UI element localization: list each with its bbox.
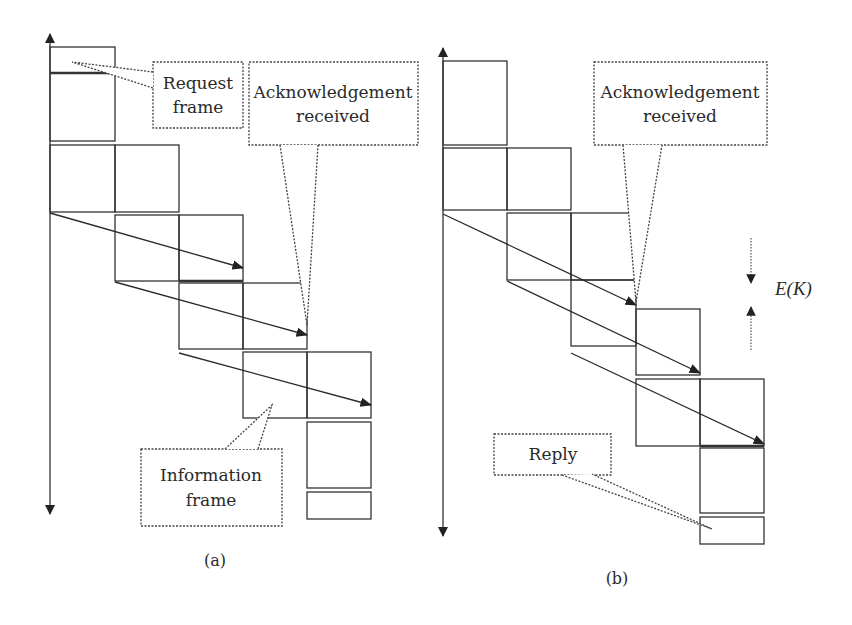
frame-box bbox=[307, 422, 371, 488]
frame-box bbox=[700, 448, 764, 513]
reply-callout: Reply bbox=[494, 434, 712, 529]
frame-box bbox=[179, 215, 243, 281]
frame-box bbox=[179, 283, 243, 349]
frame-box bbox=[571, 213, 636, 280]
diagram-layer: RequestframeAcknowledgementreceivedInfor… bbox=[50, 34, 812, 588]
callout-label: Information bbox=[160, 465, 262, 485]
transmission-arrow bbox=[507, 281, 700, 373]
frame-box bbox=[507, 148, 571, 210]
acknowledgement-received-callout: Acknowledgementreceived bbox=[594, 62, 767, 302]
frame-box bbox=[243, 283, 307, 349]
flow-control-diagram: RequestframeAcknowledgementreceivedInfor… bbox=[0, 0, 852, 625]
callout-label: received bbox=[643, 106, 717, 126]
transmission-arrow bbox=[115, 282, 307, 335]
callout-label: Request bbox=[163, 73, 233, 93]
callout-box bbox=[153, 62, 243, 128]
frame-box bbox=[115, 215, 179, 281]
callout-label: received bbox=[296, 106, 370, 126]
diagram-b: AcknowledgementreceivedReplyE(K)(b) bbox=[443, 48, 812, 588]
subfigure-caption: (b) bbox=[606, 569, 629, 588]
callout-label: Acknowledgement bbox=[252, 82, 412, 102]
frame-box bbox=[700, 379, 764, 446]
frame-box bbox=[50, 145, 115, 212]
interval-marker: E(K) bbox=[751, 238, 812, 350]
frame-box bbox=[307, 492, 371, 519]
frame-box bbox=[443, 61, 507, 145]
frame-box bbox=[700, 517, 764, 544]
callout-label: Acknowledgement bbox=[599, 82, 759, 102]
diagram-a: RequestframeAcknowledgementreceivedInfor… bbox=[50, 34, 418, 570]
frame-box bbox=[115, 145, 179, 212]
frame-box bbox=[636, 379, 700, 446]
callout-label: Reply bbox=[529, 444, 578, 464]
frame-box bbox=[50, 47, 115, 141]
transmission-arrow bbox=[50, 213, 243, 268]
callout-box bbox=[594, 62, 767, 145]
information-frame-callout: Informationframe bbox=[141, 405, 282, 526]
frame-box bbox=[307, 352, 371, 418]
callout-box bbox=[249, 62, 418, 145]
callout-label: frame bbox=[186, 490, 237, 510]
acknowledgement-received-callout: Acknowledgementreceived bbox=[249, 62, 418, 325]
callout-box bbox=[141, 449, 282, 526]
subfigure-caption: (a) bbox=[204, 551, 226, 570]
interval-label: E(K) bbox=[774, 278, 812, 300]
frame-box bbox=[636, 309, 700, 375]
callout-label: frame bbox=[173, 97, 224, 117]
transmission-arrow bbox=[571, 353, 764, 444]
transmission-arrow bbox=[443, 214, 636, 305]
transmission-arrow bbox=[179, 353, 371, 405]
frame-box bbox=[443, 148, 507, 210]
